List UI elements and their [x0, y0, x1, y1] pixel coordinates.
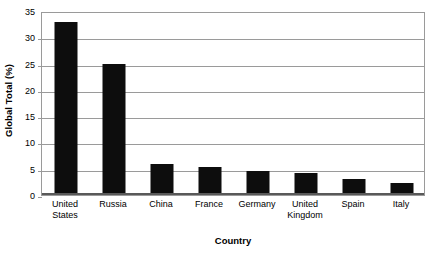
x-tick-label: Italy	[377, 199, 425, 210]
bar[interactable]	[295, 173, 318, 195]
bar[interactable]	[103, 64, 126, 195]
bar[interactable]	[151, 164, 174, 195]
y-axis-title-text: Global Total (%)	[4, 63, 15, 136]
y-tick-label-15: 15	[25, 112, 35, 122]
y-tick-label-30: 30	[25, 33, 35, 43]
bar[interactable]	[55, 22, 78, 195]
y-tick-label-10: 10	[25, 138, 35, 148]
y-tick-label-5: 5	[30, 165, 35, 175]
y-axis-title: Global Total (%)	[0, 0, 18, 200]
x-tick-label: Germany	[233, 199, 281, 210]
y-tick-label-0: 0	[30, 191, 35, 201]
bar[interactable]	[199, 167, 222, 195]
y-tick-label-35: 35	[25, 7, 35, 17]
bar-slot	[330, 13, 378, 195]
x-tick-label: Russia	[89, 199, 137, 210]
bar-slot	[138, 13, 186, 195]
bar-slot	[378, 13, 426, 195]
bar-chart-figure: Global Total (%) 05101520253035 United S…	[0, 0, 433, 260]
x-tick-label: United Kingdom	[281, 199, 329, 221]
bar-slot	[90, 13, 138, 195]
x-axis-title: Country	[41, 235, 425, 246]
bar-slot	[42, 13, 90, 195]
y-tick-label-20: 20	[25, 86, 35, 96]
bar[interactable]	[247, 171, 270, 195]
y-tickmark-0	[38, 197, 42, 198]
bar-slot	[186, 13, 234, 195]
bar-slot	[282, 13, 330, 195]
x-tick-label: China	[137, 199, 185, 210]
plot-area	[41, 12, 425, 196]
y-tick-label-25: 25	[25, 60, 35, 70]
x-axis-line	[42, 193, 424, 195]
x-tick-label: United States	[41, 199, 89, 221]
x-axis-tick-labels: United StatesRussiaChinaFranceGermanyUni…	[41, 199, 425, 233]
bar-slot	[234, 13, 282, 195]
y-axis-tick-labels: 05101520253035	[18, 12, 38, 196]
x-tick-label: France	[185, 199, 233, 210]
bars-series	[42, 13, 424, 195]
x-tick-label: Spain	[329, 199, 377, 210]
